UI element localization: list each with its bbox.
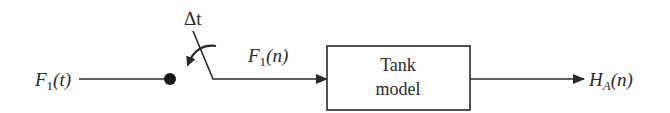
sample-interval-label: Δt	[184, 8, 202, 29]
sampled-signal-label: F1(n)	[247, 45, 288, 69]
sampler-contact-dot	[164, 73, 176, 85]
output-signal-label: HA(n)	[588, 69, 633, 93]
block-label-line1: Tank	[380, 55, 416, 75]
input-signal-label: F1(t)	[34, 69, 71, 93]
block-diagram: F1(t) Δt F1(n) Tank model HA(n)	[0, 0, 670, 113]
block-label-line2: model	[376, 79, 421, 99]
